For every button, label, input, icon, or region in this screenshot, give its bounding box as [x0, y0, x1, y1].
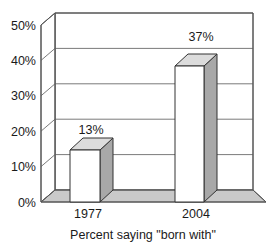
x-axis-labels: 1977 2004 [74, 207, 210, 221]
data-label-2004: 37% [188, 30, 213, 44]
chart-canvas: 50% 40% 30% 20% 10% 0% 13% 37% 1977 2004… [0, 0, 279, 246]
x-axis-title: Percent saying "born with" [70, 228, 216, 242]
bar-2004-front [175, 66, 204, 202]
data-label-1977: 13% [78, 123, 103, 137]
category-label-1977: 1977 [74, 207, 102, 221]
bar-1977 [70, 138, 113, 202]
y-tick-label-20: 20% [11, 125, 36, 139]
y-tick-label-40: 40% [11, 54, 36, 68]
bar-2004 [175, 54, 217, 202]
y-axis-labels: 50% 40% 30% 20% 10% 0% [11, 19, 36, 210]
left-side-wall [41, 13, 55, 202]
y-tick-label-50: 50% [11, 19, 36, 33]
category-label-2004: 2004 [182, 207, 210, 221]
bar-1977-front [70, 150, 100, 202]
bar-chart: 50% 40% 30% 20% 10% 0% 13% 37% 1977 2004… [0, 0, 279, 246]
y-tick-label-0: 0% [18, 196, 36, 210]
y-tick-label-30: 30% [11, 89, 36, 103]
y-tick-label-10: 10% [11, 160, 36, 174]
bar-2004-side [204, 54, 217, 202]
